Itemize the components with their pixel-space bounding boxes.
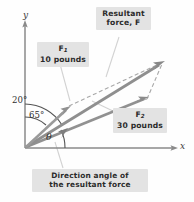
vector-f2-arrowhead — [137, 97, 149, 103]
callout-resultant-force: Resultant force, F — [96, 7, 151, 30]
x-axis-label: x — [180, 141, 185, 151]
callout-f2-symbol: F2 — [116, 110, 164, 121]
angle-label-theta: θ — [46, 131, 52, 142]
callout-direction-line2: the resultant force — [35, 180, 145, 189]
y-axis-label: y — [23, 10, 28, 20]
leader-line-direction — [55, 142, 63, 168]
callout-f1-subscript: 1 — [64, 47, 68, 53]
callout-f2-magnitude: 30 pounds — [116, 121, 164, 130]
callout-f1-symbol: F1 — [40, 44, 86, 55]
callout-f2-subscript: 2 — [141, 113, 145, 119]
callout-direction-angle: Direction angle of the resultant force — [32, 169, 148, 192]
angle-label-20-degrees: 20° — [12, 95, 27, 105]
callout-f1-magnitude: 10 pounds — [40, 55, 86, 64]
callout-force-f2: F2 30 pounds — [113, 108, 167, 133]
leader-line-resultant — [106, 37, 119, 77]
callout-force-f1: F1 10 pounds — [37, 42, 89, 67]
callout-resultant-line1: Resultant — [99, 9, 148, 18]
dashed-f1-extension — [69, 63, 161, 106]
callout-resultant-line2: force, F — [99, 18, 148, 27]
leader-line-f1 — [60, 64, 70, 101]
angle-label-65-degrees: 65° — [29, 110, 44, 120]
callout-direction-line1: Direction angle of — [35, 171, 145, 180]
